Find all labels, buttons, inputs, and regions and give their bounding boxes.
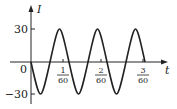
svg-text:3: 3 <box>140 66 145 75</box>
chart: I t 30 0 −30 1 60 2 60 3 60 <box>0 0 177 109</box>
y-axis-arrow-icon <box>29 5 34 12</box>
y-label-neg30: −30 <box>5 88 28 101</box>
x-label-1-60: 1 60 <box>57 66 69 85</box>
x-label-2-60: 2 60 <box>95 66 107 85</box>
x-axis-label: t <box>165 64 170 77</box>
y-label-30: 30 <box>14 23 28 36</box>
y-label-0: 0 <box>20 63 27 76</box>
x-label-3-60: 3 60 <box>137 66 149 85</box>
svg-text:1: 1 <box>60 66 65 75</box>
svg-text:60: 60 <box>96 76 106 85</box>
svg-text:60: 60 <box>138 76 148 85</box>
svg-text:60: 60 <box>58 76 68 85</box>
svg-text:2: 2 <box>98 66 103 75</box>
y-axis-label: I <box>36 3 42 16</box>
